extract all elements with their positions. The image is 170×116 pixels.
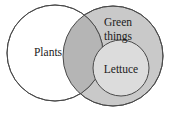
set-label-lettuce: Lettuce [104, 63, 138, 75]
set-label-green-things-line2: things [104, 30, 133, 43]
set-label-plants: Plants [34, 46, 63, 58]
venn-diagram: Plants Green things Lettuce [0, 0, 170, 116]
venn-diagram-canvas: Plants Green things Lettuce [0, 0, 170, 116]
set-label-green-things-line1: Green [104, 16, 132, 28]
